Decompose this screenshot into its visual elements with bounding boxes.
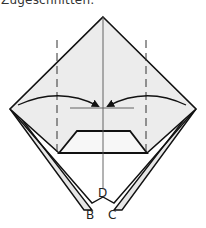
label-b: B [86,208,94,222]
label-c: C [108,208,116,222]
label-d: D [98,186,107,200]
origami-diagram: D B C [0,0,206,228]
